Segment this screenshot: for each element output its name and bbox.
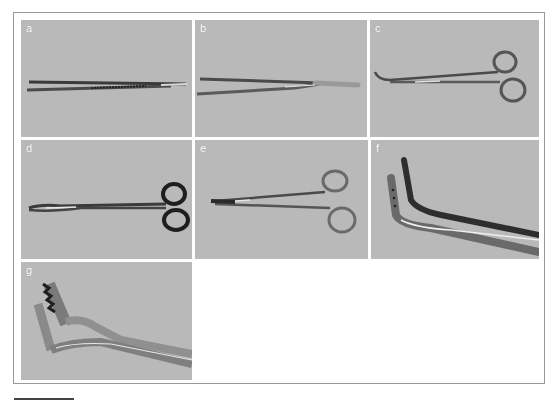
panel-f: f bbox=[371, 140, 539, 259]
panel-d: d bbox=[21, 140, 192, 259]
curved-hemostat-image bbox=[370, 20, 539, 137]
panel-g: g bbox=[21, 262, 192, 380]
panel-e: e bbox=[195, 140, 368, 259]
thumb-forceps-image bbox=[21, 20, 192, 137]
panel-b: b bbox=[195, 20, 367, 137]
panel-c: c bbox=[370, 20, 539, 137]
tissue-forceps-image bbox=[195, 20, 367, 137]
needle-holder-image bbox=[195, 140, 368, 259]
panel-a: a bbox=[21, 20, 192, 137]
toothed-angled-clamp-image bbox=[21, 262, 192, 380]
curved-scissors-image bbox=[21, 140, 192, 259]
angled-clamp-image bbox=[371, 140, 539, 259]
